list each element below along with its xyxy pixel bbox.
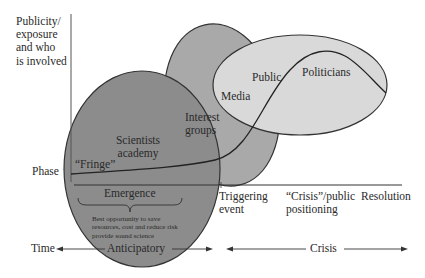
interest-label-line1: Interest xyxy=(185,111,219,124)
crisis-arrowhead-right-icon xyxy=(401,247,408,252)
crisis-public-line2: positioning xyxy=(286,203,355,216)
resolution-label: Resolution xyxy=(361,190,411,203)
y-axis-label: Publicity/ exposure and who is involved xyxy=(16,15,67,68)
anticipatory-label: Anticipatory xyxy=(107,242,165,255)
media-label: Media xyxy=(221,90,250,103)
triggering-line2: event xyxy=(219,203,268,216)
emergence-label: Emergence xyxy=(104,187,156,200)
interest-groups-label: Interest groups xyxy=(185,111,219,137)
triggering-line1: Triggering xyxy=(219,190,268,203)
crisis-label: Crisis xyxy=(310,242,337,255)
crisis-public-line1: “Crisis”/public xyxy=(286,190,355,203)
time-label: Time xyxy=(31,242,55,255)
y-axis-label-line: exposure xyxy=(16,28,67,41)
crisis-public-label: “Crisis”/public positioning xyxy=(286,190,355,216)
y-axis-label-line: is involved xyxy=(16,55,67,68)
scientists-label-line1: Scientists xyxy=(108,134,168,147)
triggering-event-label: Triggering event xyxy=(219,190,268,216)
emergence-note: Best opportunity to save resources, cost… xyxy=(92,215,178,240)
arrowhead-left-icon xyxy=(56,247,63,252)
interest-label-line2: groups xyxy=(185,124,219,137)
y-axis-label-line: and who xyxy=(16,41,67,54)
arrowhead-right-icon xyxy=(206,247,213,252)
phase-label: Phase xyxy=(32,165,59,178)
emergence-note-line: Best opportunity to save xyxy=(92,215,178,223)
crisis-arrowhead-left-icon xyxy=(226,247,233,252)
fringe-label: “Fringe” xyxy=(75,158,115,171)
public-ellipse xyxy=(213,35,387,135)
politicians-label: Politicians xyxy=(302,66,351,79)
scientists-label: Scientists academy xyxy=(108,134,168,160)
emergence-note-line: resources, cost and reduce risk xyxy=(92,223,178,231)
public-label: Public xyxy=(252,71,281,84)
scientists-label-line2: academy xyxy=(108,147,168,160)
emergence-note-line: provide sound science xyxy=(92,232,178,240)
y-axis-label-line: Publicity/ xyxy=(16,15,67,28)
